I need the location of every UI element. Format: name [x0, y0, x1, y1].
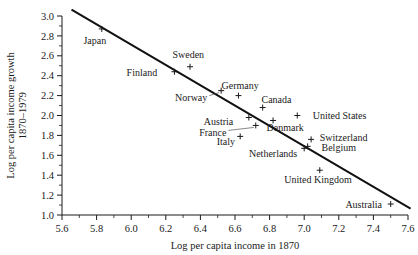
point-label: Norway	[175, 92, 207, 103]
data-point	[187, 64, 193, 70]
x-axis: 5.65.86.06.26.46.66.87.07.27.47.6	[55, 215, 414, 234]
point-label: United States	[313, 110, 367, 121]
x-tick-label: 7.4	[367, 223, 381, 234]
point-label: Germany	[222, 80, 259, 91]
data-points: JapanSwedenFinlandNorwayGermanyCanadaUni…	[83, 26, 393, 210]
x-tick-label: 6.4	[194, 223, 208, 234]
y-axis-title-line2: 1870–1979	[17, 92, 28, 139]
data-point	[388, 201, 394, 207]
scatter-chart: 1.01.21.41.61.82.02.22.42.62.83.0 5.65.8…	[0, 0, 418, 255]
y-tick-label: 2.4	[41, 70, 55, 81]
x-tick-label: 7.0	[298, 223, 311, 234]
x-tick-label: 5.8	[90, 223, 103, 234]
y-tick-label: 1.4	[41, 170, 55, 181]
point-label: Italy	[217, 136, 235, 147]
point-label: Finland	[127, 67, 158, 78]
x-tick-label: 6.0	[125, 223, 138, 234]
y-axis-title-line1: Log per capita income growth	[5, 51, 16, 178]
x-tick-label: 6.6	[228, 223, 241, 234]
y-tick-label: 1.8	[41, 130, 54, 141]
chart-canvas: 1.01.21.41.61.82.02.22.42.62.83.0 5.65.8…	[0, 0, 418, 255]
x-tick-label: 6.2	[159, 223, 172, 234]
point-label: Australia	[345, 199, 382, 210]
point-label: United Kingdom	[284, 174, 352, 185]
point-label: Belgium	[322, 142, 357, 153]
x-tick-label: 7.6	[401, 223, 414, 234]
y-tick-label: 1.2	[41, 190, 54, 201]
y-tick-label: 1.0	[41, 210, 54, 221]
y-axis: 1.01.21.41.61.82.02.22.42.62.83.0	[41, 11, 62, 221]
y-tick-label: 2.2	[41, 90, 54, 101]
point-label: Canada	[262, 94, 293, 105]
y-tick-label: 3.0	[41, 11, 54, 22]
label-leader-line	[228, 127, 253, 130]
point-label: Denmark	[267, 122, 304, 133]
data-point	[260, 105, 266, 111]
y-tick-label: 2.6	[41, 50, 54, 61]
x-tick-label: 5.6	[55, 223, 68, 234]
data-point	[237, 133, 243, 139]
point-label: Netherlands	[249, 148, 297, 159]
y-tick-label: 2.8	[41, 31, 54, 42]
data-point	[294, 113, 300, 119]
x-tick-label: 6.8	[263, 223, 276, 234]
x-tick-label: 7.2	[332, 223, 345, 234]
point-label: Japan	[83, 35, 106, 46]
data-point	[317, 167, 323, 173]
data-point	[235, 93, 241, 99]
x-axis-title: Log per capita income in 1870	[171, 240, 300, 251]
point-label: Sweden	[172, 49, 204, 60]
y-tick-label: 2.0	[41, 110, 54, 121]
y-tick-label: 1.6	[41, 150, 54, 161]
point-label: Austria	[204, 116, 234, 127]
data-point	[308, 136, 314, 142]
